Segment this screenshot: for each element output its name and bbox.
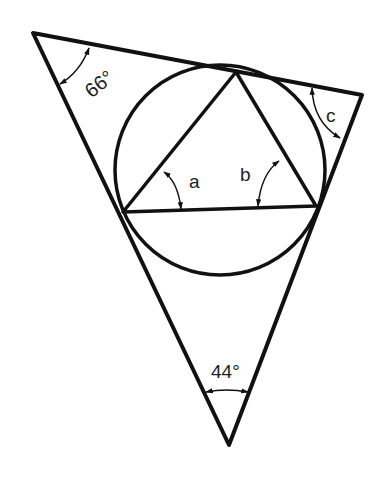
- angle-label-44: 44°: [211, 361, 240, 382]
- angle-marker-bottom: 44°: [206, 361, 248, 392]
- inner-triangle: [123, 72, 316, 212]
- angle-label-c: c: [326, 105, 336, 126]
- angle-label-a: a: [189, 171, 200, 192]
- angle-marker-a: a: [164, 171, 200, 209]
- angle-marker-top-left: 66°: [60, 48, 118, 102]
- geometry-diagram: 66° c a b 44°: [0, 0, 389, 483]
- angle-label-b: b: [240, 164, 251, 185]
- angle-marker-b: b: [240, 161, 279, 206]
- angle-label-66: 66°: [80, 66, 117, 102]
